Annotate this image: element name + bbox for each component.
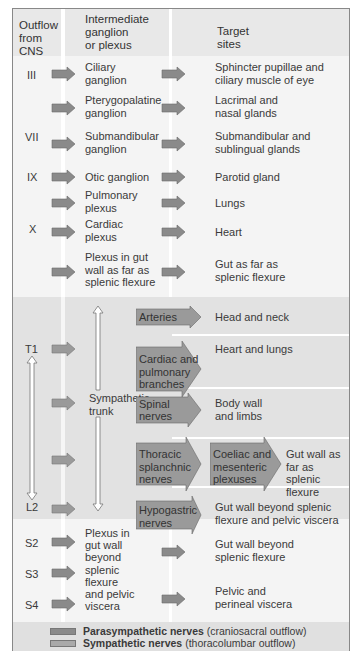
parasympathetic-arrow-icon bbox=[161, 591, 187, 607]
target-body-wall: Body walland limbs bbox=[215, 397, 262, 422]
target-heart: Heart bbox=[215, 226, 242, 239]
parasympathetic-arrow-icon bbox=[51, 66, 77, 82]
target-pelvic-perineal: Pelvic andperineal viscera bbox=[215, 585, 292, 610]
outflow-label-X: X bbox=[29, 223, 36, 236]
parasympathetic-arrow-icon bbox=[161, 136, 187, 152]
legend-parasympathetic: Parasympathetic nerves (craniosacral out… bbox=[83, 625, 307, 638]
sympathetic-trunk-up-arrow-icon bbox=[92, 305, 104, 391]
target-lacrimal: Lacrimal andnasal glands bbox=[215, 94, 278, 119]
legend-swatch-parasympathetic bbox=[50, 628, 76, 635]
parasympathetic-arrow-icon bbox=[51, 224, 77, 240]
target-eye: Sphincter pupillae andciliary muscle of … bbox=[215, 61, 324, 86]
parasympathetic-arrow-icon bbox=[51, 136, 77, 152]
branch-cardiac-pulmonary: Cardiac andpulmonarybranches bbox=[136, 341, 202, 397]
target-submandibular: Submandibular andsublingual glands bbox=[215, 130, 310, 155]
branch-hypogastric: Hypogastricnerves bbox=[136, 496, 202, 534]
parasympathetic-arrow-icon bbox=[51, 264, 77, 280]
sympathetic-arrow-icon bbox=[51, 395, 77, 411]
outflow-label-S3: S3 bbox=[25, 568, 38, 581]
outflow-label-IX: IX bbox=[27, 171, 37, 184]
target-gut-beyond-splenic: Gut wall beyondsplenic flexure bbox=[215, 538, 294, 563]
ganglion-cardiac: Cardiacplexus bbox=[85, 218, 123, 243]
outflow-label-VII: VII bbox=[25, 131, 38, 144]
diagram-frame: OutflowfromCNS Intermediateganglionor pl… bbox=[12, 8, 350, 651]
header-target: Targetsites bbox=[217, 25, 249, 51]
header-ganglion: Intermediateganglionor plexus bbox=[85, 13, 149, 52]
branch-spinal-nerves: Spinal nerves bbox=[136, 393, 202, 427]
header-outflow: OutflowfromCNS bbox=[19, 19, 58, 58]
branch-thoracic-splanchnic: Thoracicsplanchnicnerves bbox=[136, 437, 202, 491]
outflow-label-L2: L2 bbox=[26, 501, 38, 514]
ganglion-pulmonary: Pulmonaryplexus bbox=[85, 189, 138, 214]
parasympathetic-arrow-icon bbox=[51, 100, 77, 116]
legend-sympathetic: Sympathetic nerves (thoracolumbar outflo… bbox=[83, 637, 295, 650]
parasympathetic-arrow-icon bbox=[161, 544, 187, 560]
plexus-coeliac-mesenteric: Coeliac andmesentericplexuses bbox=[210, 437, 282, 491]
outflow-range-double-arrow-icon bbox=[25, 355, 39, 501]
parasympathetic-arrow-icon bbox=[51, 195, 77, 211]
ganglion-otic: Otic ganglion bbox=[85, 171, 149, 184]
branch-arteries: Arteries bbox=[136, 306, 202, 328]
outflow-label-III: III bbox=[27, 69, 36, 82]
target-lungs: Lungs bbox=[215, 197, 245, 210]
ganglion-gut-plexus: Plexus in gutwall as far assplenic flexu… bbox=[85, 251, 155, 289]
parasympathetic-arrow-icon bbox=[161, 100, 187, 116]
parasympathetic-arrow-icon bbox=[161, 264, 187, 280]
parasympathetic-arrow-icon bbox=[51, 565, 77, 581]
parasympathetic-arrow-icon bbox=[51, 596, 77, 612]
parasympathetic-arrow-icon bbox=[161, 195, 187, 211]
ganglion-submandibular: Submandibularganglion bbox=[85, 130, 159, 155]
parasympathetic-arrow-icon bbox=[51, 169, 77, 185]
ganglion-pterygopalatine: Pterygopalatineganglion bbox=[85, 94, 161, 119]
outflow-label-T1: T1 bbox=[25, 343, 38, 356]
target-heart-lungs: Heart and lungs bbox=[215, 343, 293, 356]
parasympathetic-arrow-icon bbox=[161, 224, 187, 240]
parasympathetic-arrow-icon bbox=[51, 534, 77, 550]
target-gut-splenic: Gut as far assplenic flexure bbox=[215, 258, 285, 283]
sympathetic-arrow-icon bbox=[51, 341, 77, 357]
parasympathetic-arrow-icon bbox=[161, 169, 187, 185]
legend-swatch-sympathetic bbox=[50, 640, 76, 647]
target-head-neck: Head and neck bbox=[215, 311, 289, 324]
sympathetic-arrow-icon bbox=[51, 452, 77, 468]
ganglion-sacral-plexus: Plexus ingut wallbeyondsplenicflexureand… bbox=[85, 527, 135, 612]
target-pelvic-viscera-symp: Gut wall beyond splenicflexure and pelvi… bbox=[215, 501, 339, 526]
row-separator bbox=[172, 334, 349, 336]
ganglion-ciliary: Ciliaryganglion bbox=[85, 61, 127, 86]
outflow-label-S4: S4 bbox=[25, 599, 38, 612]
sympathetic-arrow-icon bbox=[51, 501, 77, 517]
target-parotid: Parotid gland bbox=[215, 171, 280, 184]
sympathetic-trunk-down-arrow-icon bbox=[92, 416, 104, 512]
target-gut-wall-splenic: Gut wall asfar as splenicflexure bbox=[286, 448, 349, 498]
outflow-label-S2: S2 bbox=[25, 537, 38, 550]
parasympathetic-arrow-icon bbox=[161, 66, 187, 82]
